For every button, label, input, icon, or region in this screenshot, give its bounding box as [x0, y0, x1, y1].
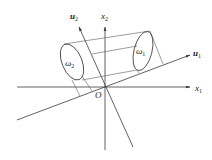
u1-label: u1 — [193, 48, 201, 59]
u1-axis — [17, 55, 190, 120]
x1-label: x1 — [194, 83, 202, 94]
cylinder-mid-edge — [92, 46, 137, 54]
cylinder-top-edge — [64, 31, 150, 44]
projection-line-omega2-left — [72, 80, 80, 96]
cylinder-bottom-edge — [82, 70, 137, 80]
omega2-region — [56, 41, 89, 84]
u2-label: u2 — [70, 11, 78, 22]
origin-label: O — [95, 90, 102, 100]
omega1-label: ω1 — [136, 46, 145, 57]
projection-diagram: u2 x2 u1 x1 O ω1 ω2 — [0, 0, 212, 160]
x2-label: x2 — [100, 11, 108, 22]
omega2-label: ω2 — [65, 58, 74, 69]
